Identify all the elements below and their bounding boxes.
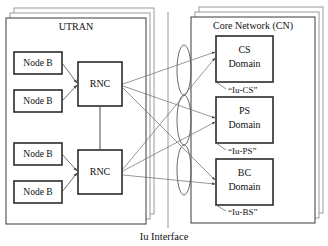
- ps-domain-suffix: Domain: [228, 119, 260, 130]
- iu-bs-label: “Iu-BS”: [228, 207, 258, 217]
- diagram-caption: Iu Interface: [140, 231, 189, 242]
- cn-title: Core Network (CN): [213, 20, 293, 32]
- rnc-label-2: RNC: [90, 166, 111, 177]
- umts-architecture-diagram: UTRAN Core Network (CN) Node B Node B No…: [0, 0, 328, 246]
- cs-domain-name: CS: [238, 44, 250, 55]
- rnc-label-1: RNC: [90, 78, 111, 89]
- iu-bs-ellipse: [177, 145, 191, 195]
- utran-title: UTRAN: [59, 21, 93, 32]
- bc-domain-name: BC: [238, 167, 252, 178]
- ps-domain-name: PS: [239, 105, 250, 116]
- cs-domain-suffix: Domain: [228, 58, 260, 69]
- iu-ps-label: “Iu-PS”: [228, 146, 257, 156]
- node-b-label-4: Node B: [23, 187, 52, 197]
- node-b-label-1: Node B: [23, 58, 52, 68]
- bc-domain-suffix: Domain: [228, 181, 260, 192]
- iu-cs-ellipse: [177, 45, 191, 95]
- node-b-label-2: Node B: [23, 96, 52, 106]
- node-b-label-3: Node B: [23, 149, 52, 159]
- diagram-canvas: UTRAN Core Network (CN) Node B Node B No…: [0, 0, 328, 246]
- iu-ps-ellipse: [177, 95, 191, 145]
- iu-cs-label: “Iu-CS”: [228, 85, 258, 95]
